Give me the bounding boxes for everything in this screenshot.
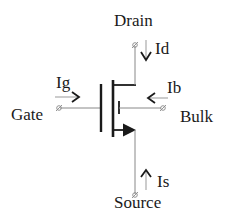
ig-label: Ig — [56, 73, 71, 92]
mosfet-diagram: Drain Id Ig Gate Ib Bulk Is Source — [0, 0, 228, 214]
ig-arrow-icon — [55, 92, 79, 102]
bulk-terminal-icon — [160, 105, 166, 111]
is-label: Is — [157, 172, 169, 191]
ib-arrow-icon — [148, 93, 168, 103]
bulk-label: Bulk — [180, 107, 214, 126]
source-label: Source — [114, 193, 161, 212]
drain-terminal-icon — [132, 42, 138, 48]
id-arrow-icon — [141, 40, 151, 60]
drain-label: Drain — [114, 11, 153, 30]
mosfet-symbol: Drain Id Ig Gate Ib Bulk Is Source — [0, 0, 228, 214]
source-arrow-icon — [123, 124, 136, 137]
gate-terminal-icon — [56, 105, 62, 111]
id-label: Id — [155, 39, 170, 58]
ib-label: Ib — [167, 78, 181, 97]
is-arrow-icon — [141, 170, 151, 190]
gate-label: Gate — [11, 105, 43, 124]
